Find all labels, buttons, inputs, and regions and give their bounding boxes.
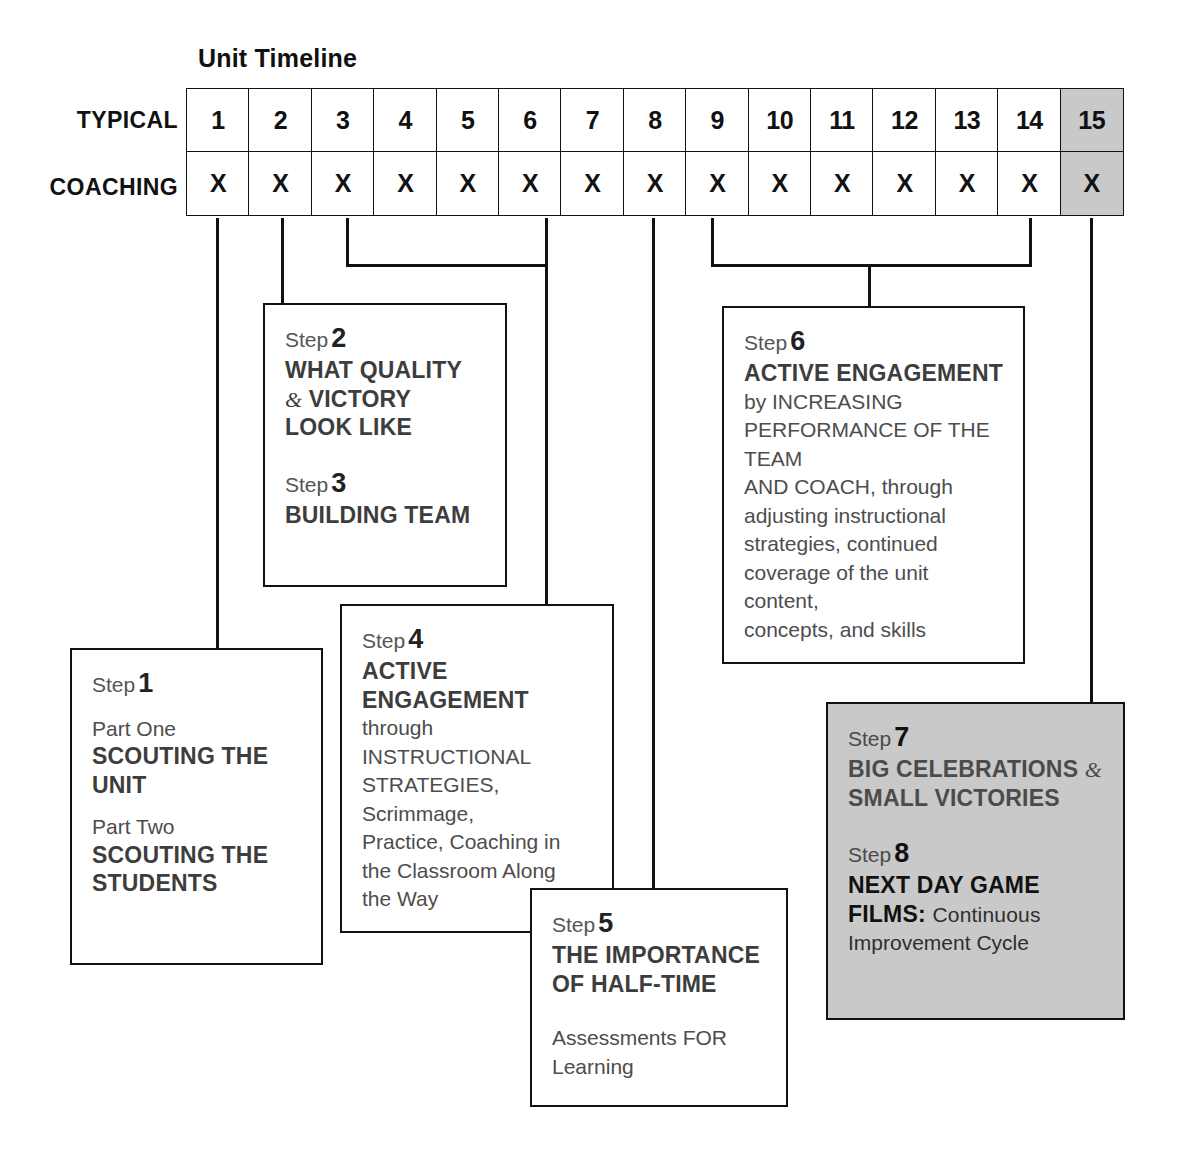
step-box-1[interactable]: Step1 Part One SCOUTING THE UNIT Part Tw…: [70, 648, 323, 965]
timeline-cell[interactable]: 6: [498, 88, 562, 153]
step1-part-two-label: Part Two: [92, 813, 301, 840]
timeline-cell[interactable]: X: [186, 151, 250, 216]
timeline-cell[interactable]: X: [623, 151, 687, 216]
step4-step-label: Step: [362, 629, 405, 652]
step6-body-line7: concepts, and skills: [744, 616, 1003, 645]
step1-part-one-title-line2: UNIT: [92, 771, 301, 800]
step5-body-line1: Assessments FOR: [552, 1024, 766, 1053]
step4-title-line2: ENGAGEMENT: [362, 686, 592, 715]
step4-body-line2: STRATEGIES, Scrimmage,: [362, 771, 592, 828]
timeline-cell[interactable]: 10: [748, 88, 812, 153]
spacer: [552, 998, 766, 1024]
timeline-cell[interactable]: X: [248, 151, 312, 216]
timeline-cell[interactable]: 11: [810, 88, 874, 153]
step-box-7-8[interactable]: Step7 BIG CELEBRATIONS & SMALL VICTORIES…: [826, 702, 1125, 1020]
step4-heading: Step4: [362, 624, 592, 655]
spacer: [92, 799, 301, 813]
timeline-cell[interactable]: 4: [373, 88, 437, 153]
step2-title-line2-text: VICTORY: [309, 386, 411, 412]
step6-body-line4: adjusting instructional: [744, 502, 1003, 531]
step6-body-line5: strategies, continued: [744, 530, 1003, 559]
timeline-cell[interactable]: 5: [436, 88, 500, 153]
timeline-cell[interactable]: 3: [311, 88, 375, 153]
step5-heading: Step5: [552, 908, 766, 939]
timeline-cell[interactable]: X: [498, 151, 562, 216]
timeline-cell[interactable]: 8: [623, 88, 687, 153]
step-box-6[interactable]: Step6 ACTIVE ENGAGEMENT by INCREASING PE…: [722, 306, 1025, 664]
connector-col14-stub: [1029, 218, 1032, 266]
timeline-cell[interactable]: X: [997, 151, 1061, 216]
timeline-cell[interactable]: X: [560, 151, 624, 216]
step4-body-line3: Practice, Coaching in: [362, 828, 592, 857]
timeline-cell[interactable]: X: [748, 151, 812, 216]
connector-bracket-to-step6: [868, 264, 871, 308]
step3-number: 3: [331, 468, 346, 498]
step2-title-line2: & VICTORY: [285, 385, 485, 414]
step7-title-line2: SMALL VICTORIES: [848, 784, 1103, 813]
connector-bracket-9-14: [711, 264, 1032, 267]
step8-title-line1: NEXT DAY GAME: [848, 871, 1103, 900]
step6-body-line6: coverage of the unit content,: [744, 559, 1003, 616]
step3-title: BUILDING TEAM: [285, 501, 485, 530]
step-box-5[interactable]: Step5 THE IMPORTANCE OF HALF-TIME Assess…: [530, 888, 788, 1107]
page-title: Unit Timeline: [198, 44, 357, 73]
step-box-2-3[interactable]: Step2 WHAT QUALITY & VICTORY LOOK LIKE S…: [263, 303, 507, 587]
timeline-cell[interactable]: 12: [872, 88, 936, 153]
step1-part-one-label: Part One: [92, 715, 301, 742]
timeline-cell[interactable]: 7: [560, 88, 624, 153]
step1-part-one-title-line1: SCOUTING THE: [92, 742, 301, 771]
step6-body-line1: by INCREASING: [744, 388, 1003, 417]
step8-heading: Step8: [848, 838, 1103, 869]
step5-body-line2: Learning: [552, 1053, 766, 1082]
timeline-cell[interactable]: 1: [186, 88, 250, 153]
connector-col2-to-step2: [281, 218, 284, 305]
connector-bracket-to-step4: [545, 264, 548, 606]
row-label-typical: TYPICAL: [18, 107, 178, 134]
step2-heading: Step2: [285, 323, 485, 354]
ampersand-icon: &: [285, 387, 302, 412]
timeline-cell[interactable]: X: [311, 151, 375, 216]
spacer: [285, 442, 485, 468]
step7-title-line1-text: BIG CELEBRATIONS: [848, 756, 1078, 782]
timeline-cell[interactable]: X: [935, 151, 999, 216]
connector-col1-to-step1: [216, 218, 219, 650]
step1-part-two-title-line2: STUDENTS: [92, 869, 301, 898]
step8-films-label: FILMS:: [848, 901, 926, 927]
connector-col15-to-step7: [1090, 218, 1093, 704]
timeline-cell[interactable]: X: [436, 151, 500, 216]
step2-title-line1: WHAT QUALITY: [285, 356, 485, 385]
step4-title-line1: ACTIVE: [362, 657, 592, 686]
step2-title-line3: LOOK LIKE: [285, 413, 485, 442]
timeline-cell[interactable]: 13: [935, 88, 999, 153]
timeline-cell-highlighted[interactable]: 15: [1060, 88, 1124, 153]
connector-col3-stub: [346, 218, 349, 266]
step8-title-line2: FILMS: Continuous: [848, 900, 1103, 930]
spacer: [848, 812, 1103, 838]
step1-number: 1: [138, 668, 153, 698]
timeline-cell[interactable]: 9: [685, 88, 749, 153]
step-box-4[interactable]: Step4 ACTIVE ENGAGEMENT through INSTRUCT…: [340, 604, 614, 933]
step6-step-label: Step: [744, 331, 787, 354]
step8-step-label: Step: [848, 843, 891, 866]
timeline-cell[interactable]: X: [373, 151, 437, 216]
timeline-cell[interactable]: X: [810, 151, 874, 216]
connector-col8-to-step5: [652, 218, 655, 890]
step3-step-label: Step: [285, 473, 328, 496]
timeline-cell-highlighted[interactable]: X: [1060, 151, 1124, 216]
step6-title: ACTIVE ENGAGEMENT: [744, 359, 1003, 388]
connector-bracket-3-7: [346, 264, 548, 267]
step2-number: 2: [331, 323, 346, 353]
timeline-cell[interactable]: X: [685, 151, 749, 216]
step6-body-line3: AND COACH, through: [744, 473, 1003, 502]
step1-heading: Step1: [92, 668, 301, 699]
step1-part-two-title-line1: SCOUTING THE: [92, 841, 301, 870]
timeline-cell[interactable]: 14: [997, 88, 1061, 153]
step1-step-label: Step: [92, 673, 135, 696]
timeline-cell[interactable]: X: [872, 151, 936, 216]
step8-continuous-label: Continuous: [932, 903, 1040, 926]
step6-number: 6: [790, 326, 805, 356]
step3-heading: Step3: [285, 468, 485, 499]
timeline-grid: 1 2 3 4 5 6 7 8 9 10 11 12 13 14 15 X X …: [186, 88, 1146, 218]
timeline-cell[interactable]: 2: [248, 88, 312, 153]
step8-body-line1: Improvement Cycle: [848, 929, 1103, 958]
